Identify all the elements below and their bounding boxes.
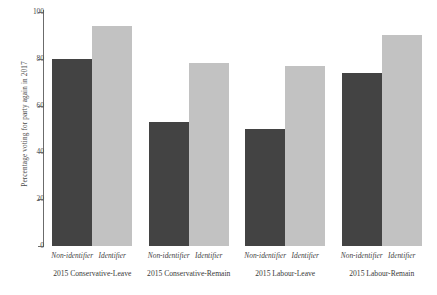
bar xyxy=(342,73,382,246)
bar xyxy=(245,129,285,246)
y-tick-mark xyxy=(38,152,43,153)
bar xyxy=(189,63,229,246)
plot-area xyxy=(44,12,430,246)
bar xyxy=(149,122,189,246)
series-label: Identifier xyxy=(279,251,331,260)
series-label: Identifier xyxy=(376,251,428,260)
series-label: Identifier xyxy=(183,251,235,260)
bar xyxy=(92,26,132,246)
bar xyxy=(285,66,325,246)
y-axis-title: Percentage voting for party again in 201… xyxy=(18,0,32,248)
y-tick-mark xyxy=(38,106,43,107)
y-tick-mark xyxy=(38,59,43,60)
y-tick-mark xyxy=(38,12,43,13)
group-label: 2015 Labour-Remain xyxy=(322,269,437,279)
y-tick: 100 xyxy=(0,8,44,16)
y-tick-mark xyxy=(38,199,43,200)
y-tick: 40 xyxy=(0,148,44,156)
bar xyxy=(382,35,422,246)
bar xyxy=(52,59,92,246)
y-tick-mark xyxy=(38,246,43,247)
y-tick: 20 xyxy=(0,195,44,203)
y-tick: 80 xyxy=(0,55,44,63)
y-tick: 0 xyxy=(0,242,44,250)
y-tick: 60 xyxy=(0,102,44,110)
series-label: Identifier xyxy=(86,251,138,260)
bar-chart: Percentage voting for party again in 201… xyxy=(0,0,437,295)
